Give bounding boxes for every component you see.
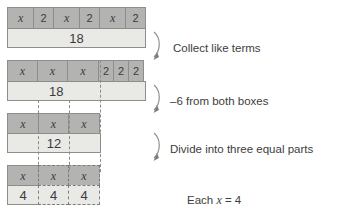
row-2-constant-strip: 18 bbox=[7, 81, 146, 101]
tile-row2-c5: 2 bbox=[113, 60, 129, 82]
tile-row2-c1: x bbox=[7, 60, 38, 82]
tile-row4-c3: x bbox=[68, 165, 100, 186]
tile-row3-total: 12 bbox=[7, 133, 101, 153]
bracket-step-2 bbox=[150, 83, 172, 119]
tile-label: 12 bbox=[47, 137, 61, 150]
row-1-constant-strip: 18 bbox=[7, 28, 146, 48]
model-row-3: x x x 12 bbox=[7, 113, 101, 153]
bracket-step-3 bbox=[150, 131, 172, 167]
tile-label: x bbox=[110, 12, 115, 24]
tile-row3-c2: x bbox=[38, 113, 69, 134]
tile-label: x bbox=[80, 65, 85, 77]
model-row-2: x x x 2 2 2 18 bbox=[7, 60, 146, 101]
algebra-tile-diagram: x 2 x 2 x 2 18 x bbox=[0, 0, 360, 224]
tile-row4-c1: x bbox=[7, 165, 39, 186]
model-row-1: x 2 x 2 x 2 18 bbox=[7, 7, 146, 48]
guide-line-split bbox=[100, 60, 101, 172]
tile-label: x bbox=[20, 118, 25, 130]
tile-label: x bbox=[64, 12, 69, 24]
tile-row4-part2: 4 bbox=[38, 185, 69, 205]
tile-row3-c3: x bbox=[68, 113, 100, 134]
tile-label: x bbox=[18, 12, 23, 24]
tile-row2-c2: x bbox=[37, 60, 68, 82]
tile-row1-c3: x bbox=[53, 7, 80, 29]
step-label-2: –6 from both boxes bbox=[170, 95, 268, 108]
step-label-1: Collect like terms bbox=[173, 42, 261, 55]
tile-label: 4 bbox=[19, 189, 26, 202]
bracket-arrow-icon bbox=[150, 83, 172, 115]
model-row-4: x x x 4 4 4 bbox=[7, 165, 101, 205]
tile-row1-c6: 2 bbox=[125, 7, 146, 29]
tile-label: 2 bbox=[41, 13, 47, 24]
row-4-variable-strip: x x x bbox=[7, 165, 101, 186]
tile-label: 18 bbox=[69, 32, 83, 45]
conclusion-prefix: Each bbox=[187, 194, 216, 206]
row-3-constant-strip: 12 bbox=[7, 133, 101, 153]
tile-label: x bbox=[81, 170, 86, 182]
tile-label: x bbox=[51, 170, 56, 182]
tile-label: x bbox=[50, 65, 55, 77]
tile-row1-total: 18 bbox=[7, 28, 146, 48]
step-label-3: Divide into three equal parts bbox=[170, 143, 313, 156]
row-2-variable-strip: x x x 2 2 2 bbox=[7, 60, 146, 82]
conclusion-suffix: = 4 bbox=[222, 194, 242, 206]
row-1-variable-strip: x 2 x 2 x 2 bbox=[7, 7, 146, 29]
tile-label: 4 bbox=[50, 189, 57, 202]
tile-label: 18 bbox=[49, 85, 63, 98]
guide-line-third-1 bbox=[38, 100, 39, 170]
tile-row2-total: 18 bbox=[7, 81, 146, 101]
guide-line-third-2 bbox=[69, 100, 70, 170]
tile-row3-c1: x bbox=[7, 113, 39, 134]
conclusion-text: Each x = 4 bbox=[187, 193, 241, 208]
tile-row2-c3: x bbox=[67, 60, 99, 82]
bracket-arrow-icon bbox=[150, 30, 172, 62]
tile-row4-c2: x bbox=[38, 165, 69, 186]
tile-label: 2 bbox=[87, 13, 93, 24]
tile-label: x bbox=[20, 65, 25, 77]
row-3-variable-strip: x x x bbox=[7, 113, 101, 134]
tile-label: 2 bbox=[133, 66, 139, 77]
tile-label: 4 bbox=[80, 189, 87, 202]
bracket-step-1 bbox=[150, 30, 172, 66]
tile-label: 2 bbox=[118, 66, 124, 77]
tile-row4-part1: 4 bbox=[7, 185, 39, 205]
row-4-constant-strip: 4 4 4 bbox=[7, 185, 101, 205]
tile-label: x bbox=[81, 118, 86, 130]
tile-row1-c5: x bbox=[99, 7, 126, 29]
tile-label: x bbox=[20, 170, 25, 182]
tile-row2-c6: 2 bbox=[128, 60, 144, 82]
tile-row1-c2: 2 bbox=[33, 7, 54, 29]
tile-label: 2 bbox=[103, 66, 109, 77]
tile-row1-c1: x bbox=[7, 7, 34, 29]
tile-label: 2 bbox=[133, 13, 139, 24]
tile-row4-part3: 4 bbox=[68, 185, 100, 205]
bracket-arrow-icon bbox=[150, 131, 172, 163]
tile-label: x bbox=[51, 118, 56, 130]
tile-row1-c4: 2 bbox=[79, 7, 100, 29]
